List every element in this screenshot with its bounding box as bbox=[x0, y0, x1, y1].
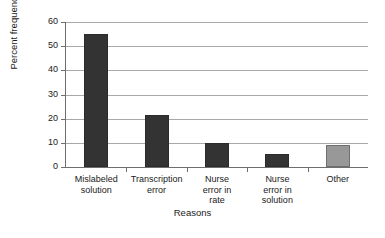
category-label: Mislabeledsolution bbox=[66, 174, 126, 195]
y-axis-title: Percent frequency bbox=[9, 0, 19, 91]
bar-5 bbox=[326, 145, 350, 167]
category-label-line: Other bbox=[308, 174, 368, 185]
category-label-line: Nurse bbox=[187, 174, 247, 185]
category-label: Nurseerror inrate bbox=[187, 174, 247, 206]
y-tick-label: 40 bbox=[36, 65, 58, 74]
bar-3 bbox=[205, 143, 229, 167]
category-label-line: Transcription bbox=[126, 174, 186, 185]
category-label: Nurseerror insolution bbox=[247, 174, 307, 206]
category-label-line: rate bbox=[187, 195, 247, 206]
category-label-line: Nurse bbox=[247, 174, 307, 185]
category-label: Other bbox=[308, 174, 368, 185]
x-axis-line bbox=[65, 167, 368, 168]
category-label-line: solution bbox=[247, 195, 307, 206]
category-label-line: error in bbox=[187, 185, 247, 196]
y-tick-label: 30 bbox=[36, 90, 58, 99]
y-tick-label: 60 bbox=[36, 17, 58, 26]
x-axis-title: Reasons bbox=[0, 207, 385, 218]
bars-container bbox=[66, 22, 368, 167]
y-tick-label: 0 bbox=[36, 162, 58, 171]
category-label: Transcriptionerror bbox=[126, 174, 186, 195]
x-tick-mark bbox=[126, 167, 127, 172]
category-label-line: error in bbox=[247, 185, 307, 196]
bar-4 bbox=[265, 154, 289, 167]
x-tick-mark bbox=[187, 167, 188, 172]
bar-2 bbox=[145, 115, 169, 167]
y-tick-label: 10 bbox=[36, 138, 58, 147]
category-label-line: error bbox=[126, 185, 186, 196]
bar-chart-figure: Percent frequency 0102030405060 Mislabel… bbox=[0, 0, 385, 238]
bar-1 bbox=[84, 34, 108, 167]
x-tick-mark bbox=[308, 167, 309, 172]
category-label-line: Mislabeled bbox=[66, 174, 126, 185]
category-label-line: solution bbox=[66, 185, 126, 196]
y-tick-mark bbox=[61, 167, 66, 168]
x-tick-mark bbox=[247, 167, 248, 172]
y-tick-label: 50 bbox=[36, 41, 58, 50]
y-tick-label: 20 bbox=[36, 114, 58, 123]
